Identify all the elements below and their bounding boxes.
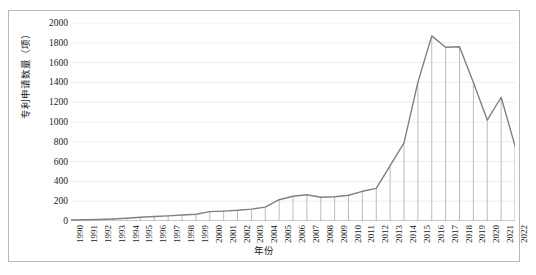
x-tick-label: 2001: [228, 225, 238, 243]
y-tick-label: 1000: [29, 117, 71, 127]
x-tick-label: 2010: [353, 225, 363, 243]
x-tick-label: 2020: [491, 225, 501, 243]
x-tick-label: 2005: [283, 225, 293, 243]
x-tick-label: 1996: [158, 225, 168, 243]
y-axis-tick-labels: 0200400600800100012001400160018002000: [27, 11, 71, 263]
x-tick-label: 1992: [103, 225, 113, 243]
x-tick-label: 2007: [311, 225, 321, 243]
line-chart-svg: [71, 23, 515, 221]
x-axis-title: 年份: [9, 243, 519, 257]
y-tick-label: 2000: [29, 18, 71, 28]
x-tick-label: 1991: [89, 225, 99, 243]
x-tick-label: 2016: [436, 225, 446, 243]
x-tick-label: 2003: [255, 225, 265, 243]
x-tick-label: 2017: [450, 225, 460, 243]
gridlines: [71, 23, 515, 221]
y-tick-label: 0: [29, 216, 71, 226]
x-tick-label: 1993: [117, 225, 127, 243]
y-tick-label: 1200: [29, 97, 71, 107]
y-tick-label: 800: [29, 137, 71, 147]
x-tick-label: 2014: [408, 225, 418, 243]
x-tick-label: 2013: [394, 225, 404, 243]
x-tick-label: 2008: [325, 225, 335, 243]
x-tick-label: 2004: [269, 225, 279, 243]
y-tick-label: 1800: [29, 38, 71, 48]
plot-area: [71, 23, 515, 221]
y-tick-label: 1600: [29, 58, 71, 68]
x-tick-label: 1998: [186, 225, 196, 243]
x-tick-label: 2018: [464, 225, 474, 243]
x-tick-label: 2021: [505, 225, 515, 243]
y-tick-label: 400: [29, 176, 71, 186]
x-tick-label: 1997: [172, 225, 182, 243]
x-tick-label: 2019: [477, 225, 487, 243]
data-drop-lines: [71, 36, 515, 221]
x-tick-label: 2002: [242, 225, 252, 243]
x-tick-label: 2012: [380, 225, 390, 243]
y-tick-label: 600: [29, 157, 71, 167]
x-tick-label: 2011: [366, 225, 376, 243]
x-tick-label: 2022: [519, 225, 529, 243]
y-tick-label: 1400: [29, 77, 71, 87]
x-tick-label: 2015: [422, 225, 432, 243]
x-tick-label: 2009: [339, 225, 349, 243]
x-tick-label: 1995: [144, 225, 154, 243]
series-line: [71, 36, 515, 220]
x-tick-label: 1994: [131, 225, 141, 243]
x-tick-label: 1990: [75, 225, 85, 243]
x-tick-label: 2000: [214, 225, 224, 243]
y-tick-label: 200: [29, 196, 71, 206]
chart-figure: 专利申请数量（项） 020040060080010001200140016001…: [8, 10, 520, 262]
x-tick-label: 2006: [297, 225, 307, 243]
x-tick-label: 1999: [200, 225, 210, 243]
